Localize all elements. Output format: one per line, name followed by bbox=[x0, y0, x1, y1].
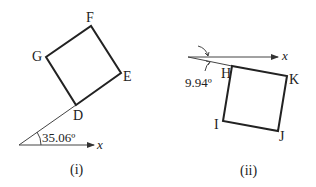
vertex-j: J bbox=[279, 129, 285, 144]
caption: (i) bbox=[70, 162, 84, 178]
vertex-g: G bbox=[32, 49, 42, 64]
square-defg bbox=[46, 26, 121, 105]
angle-arc bbox=[37, 132, 41, 145]
caption: (ii) bbox=[240, 163, 257, 179]
axis-label: x bbox=[281, 48, 288, 63]
diagram-canvas: F G E D 35.06º x (i) H K I J 9.94º x (ii… bbox=[0, 0, 316, 187]
angle-label: 35.06º bbox=[42, 130, 75, 145]
figure-i: F G E D 35.06º x (i) bbox=[19, 10, 132, 178]
vertex-d: D bbox=[73, 108, 83, 123]
arrowhead-icon bbox=[206, 61, 210, 65]
vertex-e: E bbox=[123, 69, 132, 84]
vertex-h: H bbox=[221, 66, 231, 81]
angle-label: 9.94º bbox=[185, 75, 212, 90]
figure-ii: H K I J 9.94º x (ii) bbox=[185, 46, 299, 179]
vertex-k: K bbox=[289, 72, 299, 87]
vertex-i: I bbox=[214, 117, 219, 132]
vertex-f: F bbox=[86, 10, 94, 25]
square-hkji bbox=[223, 66, 287, 131]
axis-label: x bbox=[96, 137, 103, 152]
